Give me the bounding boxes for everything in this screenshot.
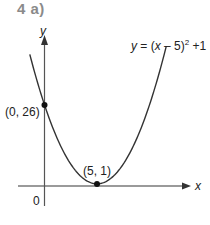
point-label-y-intercept: (0, 26) xyxy=(5,105,40,119)
y-axis-label: y xyxy=(39,24,47,38)
parabola-graph: y x 0 (0, 26) (5, 1) y = (x – 5)2 +1 xyxy=(0,0,210,225)
point-label-vertex: (5, 1) xyxy=(83,164,111,178)
x-axis-arrow-icon xyxy=(182,183,191,190)
x-axis-label: x xyxy=(194,179,202,193)
point-y-intercept xyxy=(42,102,48,108)
origin-label: 0 xyxy=(33,194,40,208)
equation-label: y = (x – 5)2 +1 xyxy=(130,38,206,53)
point-vertex xyxy=(94,181,100,187)
